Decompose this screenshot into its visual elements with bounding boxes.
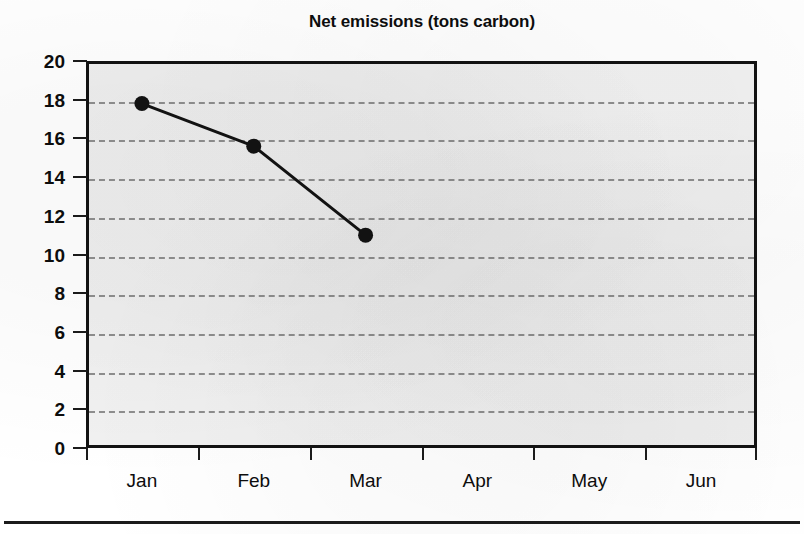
gridline-y-14	[89, 179, 754, 181]
y-tick-mark-8	[73, 292, 87, 294]
x-tick-label-jan: Jan	[92, 471, 192, 490]
y-tick-mark-10	[73, 254, 87, 256]
y-tick-mark-4	[73, 370, 87, 372]
y-tick-mark-14	[73, 176, 87, 178]
x-tick-label-jun: Jun	[651, 471, 751, 490]
gridline-y-16	[89, 140, 754, 142]
x-tick-mark-3	[422, 448, 424, 460]
gridline-y-2	[89, 411, 754, 413]
y-tick-label-8: 8	[19, 284, 65, 303]
figure-canvas: Net emissions (tons carbon) 024681012141…	[0, 0, 804, 534]
y-tick-label-20: 20	[19, 52, 65, 71]
x-tick-mark-5	[645, 448, 647, 460]
bottom-rule-divider	[4, 521, 800, 524]
y-tick-label-14: 14	[19, 168, 65, 187]
y-tick-label-12: 12	[19, 207, 65, 226]
x-tick-mark-1	[198, 448, 200, 460]
y-tick-mark-20	[73, 60, 87, 62]
x-tick-mark-0	[86, 448, 88, 460]
x-tick-label-mar: Mar	[316, 471, 416, 490]
gridline-y-8	[89, 295, 754, 297]
y-tick-label-16: 16	[19, 129, 65, 148]
x-tick-label-apr: Apr	[427, 471, 527, 490]
gridline-y-12	[89, 218, 754, 220]
x-tick-mark-6	[755, 448, 757, 460]
y-tick-mark-2	[73, 408, 87, 410]
y-tick-mark-12	[73, 215, 87, 217]
x-tick-mark-2	[310, 448, 312, 460]
x-tick-label-feb: Feb	[204, 471, 304, 490]
gridline-y-10	[89, 257, 754, 259]
gridline-y-18	[89, 102, 754, 104]
gridline-y-6	[89, 334, 754, 336]
x-tick-label-may: May	[539, 471, 639, 490]
y-tick-mark-18	[73, 99, 87, 101]
gridline-y-4	[89, 373, 754, 375]
y-tick-mark-6	[73, 331, 87, 333]
y-tick-label-4: 4	[19, 362, 65, 381]
y-tick-mark-16	[73, 137, 87, 139]
y-tick-label-18: 18	[19, 91, 65, 110]
y-tick-label-2: 2	[19, 400, 65, 419]
y-tick-label-0: 0	[19, 439, 65, 458]
y-tick-mark-0	[73, 447, 87, 449]
y-tick-label-6: 6	[19, 323, 65, 342]
y-tick-label-10: 10	[19, 246, 65, 265]
x-tick-mark-4	[533, 448, 535, 460]
chart-title: Net emissions (tons carbon)	[86, 12, 758, 32]
plot-area	[86, 61, 757, 448]
